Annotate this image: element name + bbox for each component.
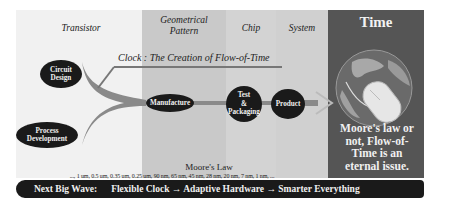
node-process-line1: Process — [27, 127, 67, 136]
next-big-wave-label: Next Big Wave: — [34, 184, 97, 194]
node-test-line2: & — [228, 100, 260, 109]
node-process-line2: Development — [27, 135, 67, 144]
node-circuit-design: Circuit Design — [40, 60, 82, 88]
merge-arrow — [82, 62, 146, 145]
node-manufacture: Manufacture — [146, 94, 194, 112]
node-process-development: Process Development — [16, 122, 78, 148]
clock-line — [114, 66, 282, 68]
arrow-head-icon — [316, 92, 332, 114]
moores-law-title: Moore's Law — [144, 162, 274, 172]
node-test-line1: Test — [228, 91, 260, 100]
connector-product-time — [304, 100, 318, 106]
node-test-line3: Packaging — [228, 108, 260, 117]
node-product: Product — [271, 89, 305, 119]
clock-label: Clock : The Creation of Flow-of-Time — [118, 52, 270, 63]
moores-law-nodes: ..., 1 um, 0.5 um, 0.35 um, 0.25 um, 90 … — [16, 173, 328, 179]
node-circuit-line1: Circuit — [50, 66, 72, 75]
node-test-packaging: Test & Packaging — [226, 86, 262, 122]
flow-of-time-diagram: Transistor Geometrical Pattern Chip Syst… — [16, 10, 424, 196]
next-big-wave-text: Flexible Clock → Adaptive Hardware → Sma… — [111, 184, 359, 194]
node-circuit-line2: Design — [50, 74, 72, 83]
clock-leader — [98, 67, 114, 88]
globe-mouse-icon — [336, 50, 412, 128]
next-big-wave-bar: Next Big Wave: Flexible Clock → Adaptive… — [16, 180, 424, 198]
connector-manufacture-test — [192, 101, 228, 105]
time-statement: Moore's law or not, Flow-of-Time is an e… — [334, 122, 420, 172]
